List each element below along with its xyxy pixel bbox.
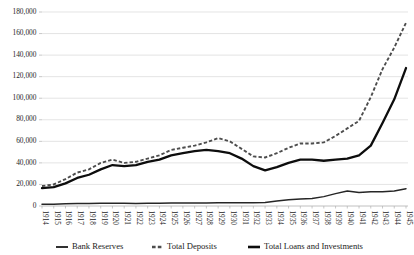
x-tick-label: 1920	[111, 211, 119, 226]
x-tick-label: 1922	[135, 211, 143, 226]
x-tick-label: 1917	[76, 211, 84, 226]
x-tick-label: 1933	[264, 211, 272, 226]
x-tick-label: 1936	[299, 211, 307, 226]
x-tick-label: 1944	[393, 211, 401, 226]
x-tick-label: 1918	[88, 211, 96, 226]
x-tick-label: 1925	[170, 211, 178, 226]
y-tick-label: 60,000	[16, 136, 37, 145]
y-axis-ticks: 020,00040,00060,00080,000100,000120,0001…	[12, 7, 42, 210]
y-tick-label: 140,000	[12, 50, 36, 59]
x-tick-label: 1940	[346, 211, 354, 226]
y-tick-label: 80,000	[16, 114, 37, 123]
series-line-total-loans-and-investments	[42, 68, 406, 188]
x-tick-label: 1915	[53, 211, 61, 226]
gridlines	[42, 12, 408, 206]
legend-label: Bank Reserves	[72, 241, 124, 251]
x-tick-label: 1941	[358, 211, 366, 226]
y-tick-label: 100,000	[12, 93, 36, 102]
x-tick-label: 1934	[276, 211, 284, 226]
x-tick-label: 1938	[323, 211, 331, 226]
x-tick-label: 1931	[241, 211, 249, 226]
series-line-total-deposits	[42, 23, 406, 186]
x-tick-label: 1942	[370, 211, 378, 226]
x-tick-label: 1914	[41, 211, 49, 226]
x-tick-label: 1943	[381, 211, 389, 226]
x-tick-label: 1921	[123, 211, 131, 226]
x-tick-label: 1945	[405, 211, 413, 226]
x-tick-label: 1926	[182, 211, 190, 226]
x-axis-ticks: 1914191519161917191819191920192119221923…	[41, 206, 413, 225]
y-tick-label: 120,000	[12, 71, 36, 80]
legend-label: Total Deposits	[167, 241, 217, 251]
series-line-bank-reserves	[42, 189, 406, 205]
x-tick-label: 1937	[311, 211, 319, 226]
x-tick-label: 1935	[288, 211, 296, 226]
x-tick-label: 1939	[334, 211, 342, 226]
x-tick-label: 1932	[252, 211, 260, 226]
x-tick-label: 1923	[147, 211, 155, 226]
x-tick-label: 1927	[194, 211, 202, 226]
x-tick-label: 1930	[229, 211, 237, 226]
data-series-group	[42, 23, 406, 205]
y-tick-label: 40,000	[16, 158, 37, 167]
x-tick-label: 1928	[205, 211, 213, 226]
chart-container: 020,00040,00060,00080,000100,000120,0001…	[0, 0, 414, 255]
x-tick-label: 1916	[64, 211, 72, 226]
x-tick-label: 1919	[100, 211, 108, 226]
line-chart: 020,00040,00060,00080,000100,000120,0001…	[0, 0, 414, 255]
y-tick-label: 0	[33, 201, 37, 210]
y-tick-label: 160,000	[12, 28, 36, 37]
chart-legend: Bank ReservesTotal DepositsTotal Loans a…	[56, 241, 364, 251]
y-tick-label: 20,000	[16, 179, 37, 188]
y-tick-label: 180,000	[12, 7, 36, 16]
legend-label: Total Loans and Investments	[264, 241, 364, 251]
x-tick-label: 1924	[158, 211, 166, 226]
x-tick-label: 1929	[217, 211, 225, 226]
